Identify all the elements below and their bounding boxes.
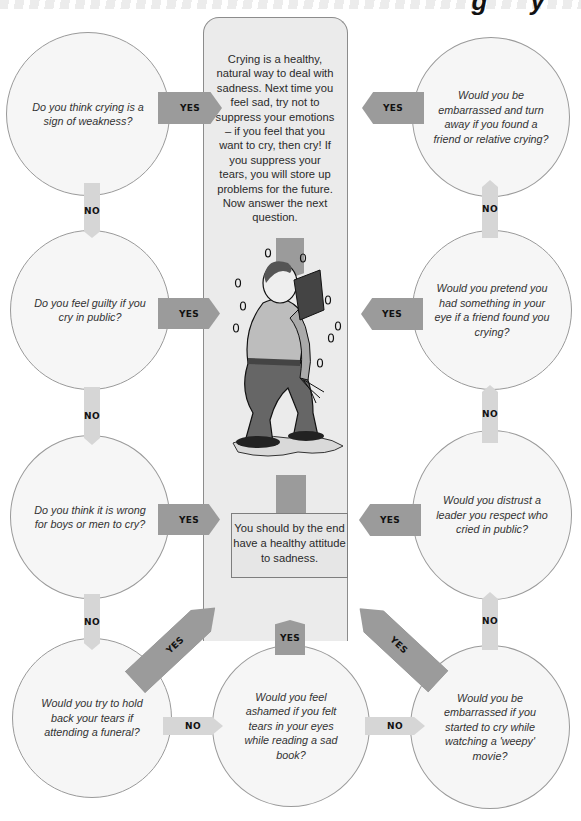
yes-arrow-bottom-middle: YES	[275, 620, 305, 655]
no-arrow-right-3: NO	[482, 592, 498, 650]
advice-text: Crying is a healthy, natural way to deal…	[214, 52, 336, 225]
no-arrow-left-3: NO	[84, 594, 100, 650]
question-text: Would you be embarrassed and turn away i…	[432, 88, 550, 146]
yes-arrow-left-1: YES	[158, 92, 222, 124]
yes-arrow-right-1: YES	[362, 92, 424, 124]
crying-man-illustration	[228, 238, 346, 468]
question-text: Would you be embarrassed if you started …	[431, 691, 549, 764]
yes-arrow-right-3: YES	[359, 504, 421, 536]
page-title-fragment: g y	[471, 0, 563, 17]
question-right-1: Would you be embarrassed and turn away i…	[412, 37, 570, 197]
question-text: Would you try to hold back your tears if…	[33, 696, 151, 740]
yes-arrow-right-2: YES	[361, 298, 423, 330]
question-right-2: Would you pretend you had something in y…	[412, 230, 572, 390]
no-arrow-left-1: NO	[84, 183, 100, 238]
end-result-box: You should by the end have a healthy att…	[231, 513, 348, 578]
question-text: Do you think it is wrong for boys or men…	[31, 503, 149, 532]
yes-arrow-left-2: YES	[158, 298, 220, 329]
yes-arrow-diagonal-right: YES	[349, 597, 448, 693]
yes-arrow-diagonal-left: YES	[125, 597, 226, 694]
no-arrow-right-2: NO	[482, 385, 498, 443]
question-text: Do you think crying is a sign of weaknes…	[29, 100, 147, 129]
yes-arrow-left-3: YES	[158, 504, 220, 535]
question-left-3: Do you think it is wrong for boys or men…	[10, 435, 170, 599]
question-left-2: Do you feel guilty if you cry in public?	[10, 230, 170, 390]
question-text: Would you feel ashamed if you felt tears…	[235, 690, 347, 763]
question-text: Do you feel guilty if you cry in public?	[31, 296, 149, 325]
no-arrow-bottom-2: NO	[365, 717, 425, 735]
question-text: Would you pretend you had something in y…	[433, 281, 551, 339]
question-bottom-middle: Would you feel ashamed if you felt tears…	[212, 645, 370, 807]
no-arrow-right-1: NO	[482, 180, 498, 238]
question-left-1: Do you think crying is a sign of weaknes…	[6, 32, 170, 196]
no-arrow-left-2: NO	[84, 387, 100, 445]
question-right-3: Would you distrust a leader you respect …	[412, 430, 572, 600]
no-arrow-bottom-1: NO	[163, 717, 223, 735]
question-text: Would you distrust a leader you respect …	[433, 493, 551, 537]
